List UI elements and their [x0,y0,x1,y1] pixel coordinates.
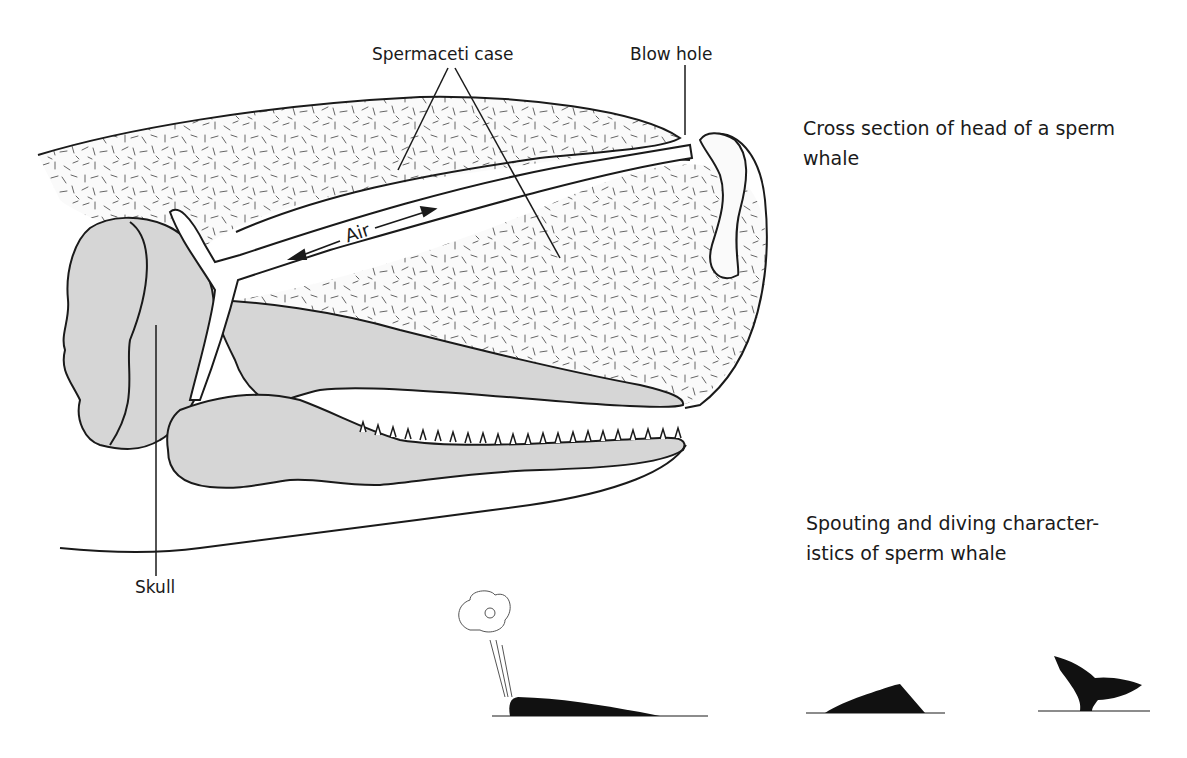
cross-section-caption-line1: Cross section of head of a sperm [803,113,1115,143]
spouting-caption-line1: Spouting and diving character- [806,508,1099,538]
spouting-caption: Spouting and diving character- istics of… [806,508,1099,568]
diving-flukes-silhouette [1038,656,1150,711]
blow-hole-label: Blow hole [630,44,712,64]
spermaceti-case-label: Spermaceti case [372,44,513,64]
cross-section-caption: Cross section of head of a sperm whale [803,113,1115,173]
surfacing-back-silhouette [806,684,945,713]
lower-jaw [167,395,684,488]
cross-section-caption-line2: whale [803,143,1115,173]
skull-label: Skull [135,577,175,597]
spouting-whale-silhouette [459,591,708,716]
spouting-caption-line2: istics of sperm whale [806,538,1099,568]
